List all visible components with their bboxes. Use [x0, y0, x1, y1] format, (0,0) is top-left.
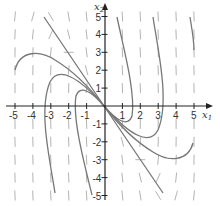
trajectory-a-mirror — [104, 106, 193, 159]
y-tick-label: 2 — [96, 65, 102, 76]
y-tick-label: -1 — [93, 119, 102, 130]
trajectory-a — [15, 53, 104, 106]
x-tick-label: 2 — [137, 110, 143, 121]
y-tick-label: -4 — [93, 173, 102, 184]
x-tick-label: -4 — [27, 110, 36, 121]
y-tick-label: -2 — [93, 137, 102, 148]
x-tick-label: 1 — [119, 110, 125, 121]
x-tick-label: -5 — [9, 110, 18, 121]
y-tick-label: -3 — [93, 155, 102, 166]
axes — [6, 6, 210, 200]
y-tick-label: 3 — [96, 47, 102, 58]
trajectory-extra — [190, 17, 194, 50]
x-axis-label: x1 — [202, 109, 212, 122]
x-tick-label: 3 — [155, 110, 161, 121]
x-tick-label: -2 — [63, 110, 72, 121]
x-tick-label: 5 — [191, 110, 197, 121]
y-tick-label: -5 — [93, 191, 102, 202]
x-tick-label: -1 — [81, 110, 90, 121]
x-tick-label: 4 — [173, 110, 179, 121]
y-tick-label: 4 — [96, 29, 102, 40]
y-tick-label: 1 — [96, 83, 102, 94]
phase-portrait: -5-4-3-2-11234554321-1-2-3-4-5 x1 x2 — [0, 0, 220, 206]
x-tick-label: -3 — [45, 110, 54, 121]
